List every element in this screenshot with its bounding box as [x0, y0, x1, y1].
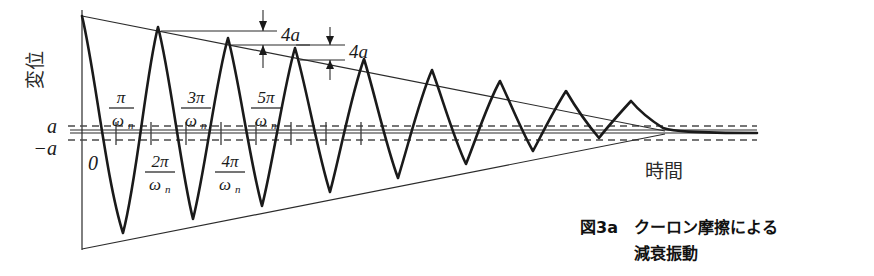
- tick-above-1-numerator: π: [117, 88, 126, 107]
- tick-below-1-denominator-subscript: n: [165, 183, 171, 195]
- figure-caption-line1: 図3a クーロン摩擦による: [580, 218, 778, 237]
- dimension-annotation-1: 4a: [161, 10, 310, 68]
- tick-below-2-denominator: ω: [219, 175, 231, 194]
- tick-label-above-3: 5π ω n: [251, 88, 281, 131]
- tick-above-2-numerator: 3π: [186, 88, 205, 107]
- damped-vibration-chart: 4a 4a 変位 a −a 0 π ω n 3π ω n: [0, 0, 874, 276]
- dim2-arrowhead-down: [326, 36, 334, 45]
- tick-label-below-2: 4π ω n: [215, 152, 245, 195]
- tick-label-above-1: π ω n: [109, 88, 134, 131]
- y-axis-label: 変位: [24, 51, 46, 89]
- x-axis-label: 時間: [645, 160, 683, 182]
- tick-label-below-1: 2π ω n: [145, 152, 175, 195]
- tick-below-2-numerator: 4π: [221, 152, 239, 171]
- figure-container: 4a 4a 変位 a −a 0 π ω n 3π ω n: [0, 0, 874, 276]
- tick-below-2-denominator-subscript: n: [235, 183, 241, 195]
- tick-above-3-denominator-subscript: n: [271, 119, 277, 131]
- tick-below-1-numerator: 2π: [151, 152, 169, 171]
- tick-above-3-numerator: 5π: [257, 88, 275, 107]
- tick-above-3-denominator: ω: [255, 111, 267, 130]
- tick-above-1-denominator: ω: [112, 111, 124, 130]
- tick-label-above-2: 3π ω n: [181, 88, 211, 131]
- tick-above-2-denominator: ω: [185, 111, 197, 130]
- origin-label: 0: [88, 152, 98, 174]
- displacement-curve: [82, 16, 757, 233]
- dimension-annotation-2: 4a: [296, 27, 368, 80]
- dim1-arrowhead-up: [259, 45, 267, 55]
- upper-envelope-line: [82, 16, 665, 131]
- tick-above-1-denominator-subscript: n: [128, 119, 134, 131]
- dimension-label-4a-1: 4a: [281, 24, 300, 45]
- dimension-label-4a-2: 4a: [349, 41, 368, 62]
- figure-caption-line2: 減衰振動: [634, 244, 698, 263]
- amplitude-positive-label: a: [47, 115, 57, 137]
- amplitude-negative-label: −a: [34, 137, 58, 159]
- tick-below-1-denominator: ω: [149, 175, 161, 194]
- tick-above-2-denominator-subscript: n: [201, 119, 207, 131]
- dim1-arrowhead-down: [259, 21, 267, 31]
